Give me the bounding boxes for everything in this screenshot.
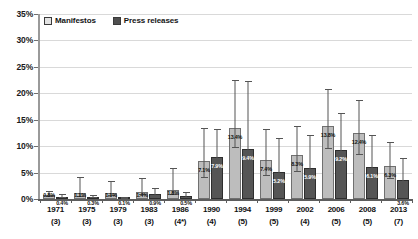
x-axis-tickmark — [40, 199, 41, 203]
bar-group: 1.4%0.9% — [133, 14, 164, 199]
y-axis-tickmark — [34, 40, 38, 41]
bar-group: 1.8%0.5% — [164, 14, 195, 199]
chart-legend: Manifestos Press releases — [44, 16, 178, 25]
legend-item-press-releases: Press releases — [113, 16, 179, 25]
y-axis-tickmark — [34, 93, 38, 94]
bar-value-label: 6.3% — [384, 172, 396, 178]
x-axis-label: 1971(3) — [40, 204, 71, 228]
bar-value-label: 7.4% — [260, 166, 272, 172]
x-axis-year: 1999 — [265, 205, 282, 214]
bar-group: 12.4%6.1% — [350, 14, 381, 199]
x-axis-year: 1975 — [78, 205, 95, 214]
x-axis-label: 1986(4*) — [165, 204, 196, 228]
x-axis-sample-count: (5) — [227, 216, 258, 228]
y-axis-tickmark — [34, 67, 38, 68]
bar-value-label: 1.1% — [74, 192, 86, 198]
bar-group: 7.1%7.9% — [195, 14, 226, 199]
bar-wrapper: 3.6% — [397, 14, 409, 199]
x-axis-year: 1986 — [172, 205, 189, 214]
x-axis-label: 1983(3) — [134, 204, 165, 228]
bar-value-label: 0.5% — [180, 200, 192, 206]
bar-wrapper: 0.9% — [149, 14, 161, 199]
bar-value-label: 12.4% — [352, 139, 366, 145]
x-axis-sample-count: (4*) — [165, 216, 196, 228]
y-axis-tick-label: 25% — [17, 62, 33, 72]
x-axis-year: 1990 — [203, 205, 220, 214]
bar-chart: 0%5%10%15%20%25%30%35% 0.8%0.4%1.1%0.3%1… — [0, 0, 418, 239]
y-axis-tickmark — [34, 120, 38, 121]
bar-wrapper: 6.3% — [384, 14, 396, 199]
x-axis-sample-count: (5) — [321, 216, 352, 228]
bar-group: 0.8%0.4% — [40, 14, 71, 199]
legend-item-manifestos: Manifestos — [44, 16, 96, 25]
legend-label-press-releases: Press releases — [124, 16, 179, 25]
error-bar — [62, 194, 63, 199]
x-axis-year: 2008 — [359, 205, 376, 214]
bar-wrapper: 0.5% — [180, 14, 192, 199]
x-axis-year: 1971 — [47, 205, 64, 214]
bar-wrapper: 6.1% — [366, 14, 378, 199]
bar-group: 1.1%0.1% — [102, 14, 133, 199]
error-bar — [124, 197, 125, 199]
bar-wrapper: 12.4% — [353, 14, 365, 199]
y-axis-tick-label: 15% — [17, 115, 33, 125]
x-axis-tickmark — [257, 199, 258, 203]
y-axis-tickmark — [34, 199, 38, 200]
bar-wrapper: 8.3% — [291, 14, 303, 199]
bar-wrapper: 13.4% — [229, 14, 241, 199]
x-axis-sample-count: (5) — [352, 216, 383, 228]
bar-group: 6.3%3.6% — [381, 14, 412, 199]
bar-value-label: 1.1% — [105, 192, 117, 198]
bar-value-label: 0.1% — [118, 200, 130, 206]
bar-value-label: 9.2% — [335, 156, 347, 162]
bar-value-label: 5.2% — [273, 178, 285, 184]
legend-label-manifestos: Manifestos — [55, 16, 96, 25]
bar-wrapper: 7.9% — [211, 14, 223, 199]
error-bar — [93, 195, 94, 199]
bar-value-label: 6.1% — [366, 173, 378, 179]
bar-value-label: 13.4% — [228, 134, 242, 140]
x-axis-label: 2006(5) — [321, 204, 352, 228]
x-axis-tickmark — [133, 199, 134, 203]
bar-value-label: 0.8% — [43, 192, 55, 198]
bar-value-label: 1.4% — [136, 192, 148, 198]
x-axis-year: 1983 — [141, 205, 158, 214]
bar-wrapper: 9.2% — [335, 14, 347, 199]
bar-value-label: 7.9% — [211, 163, 223, 169]
x-axis-label: 1994(5) — [227, 204, 258, 228]
bar-wrapper: 1.1% — [105, 14, 117, 199]
bar-value-label: 7.1% — [198, 167, 210, 173]
x-axis-label: 1979(3) — [102, 204, 133, 228]
bar-value-label: 0.3% — [87, 200, 99, 206]
x-axis-labels: 1971(3)1975(3)1979(3)1983(3)1986(4*)1990… — [40, 204, 414, 228]
x-axis-tickmark — [71, 199, 72, 203]
x-axis-sample-count: (3) — [71, 216, 102, 228]
x-axis-tickmark — [319, 199, 320, 203]
x-axis-sample-count: (3) — [134, 216, 165, 228]
y-axis-tick-label: 5% — [21, 168, 33, 178]
error-bar — [403, 158, 404, 190]
error-bar — [328, 89, 329, 149]
bar-wrapper: 9.4% — [242, 14, 254, 199]
x-axis-tickmark — [288, 199, 289, 203]
legend-swatch-icon-manifestos — [44, 17, 52, 25]
bar-wrapper: 1.1% — [74, 14, 86, 199]
error-bar — [155, 188, 156, 197]
bar-value-label: 0.4% — [56, 200, 68, 206]
bar-wrapper: 5.9% — [304, 14, 316, 199]
bar-value-label: 1.8% — [167, 190, 179, 196]
error-bar — [359, 100, 360, 155]
legend-swatch-icon-press-releases — [113, 17, 121, 25]
y-axis-tickmark — [34, 173, 38, 174]
bar-wrapper: 5.2% — [273, 14, 285, 199]
bar-wrapper: 1.8% — [167, 14, 179, 199]
x-axis-tickmark — [350, 199, 351, 203]
bar-groups: 0.8%0.4%1.1%0.3%1.1%0.1%1.4%0.9%1.8%0.5%… — [40, 14, 412, 199]
x-axis-sample-count: (4) — [289, 216, 320, 228]
bar-value-label: 3.6% — [397, 200, 409, 206]
x-axis-label: 2008(5) — [352, 204, 383, 228]
x-axis-label: 2002(4) — [289, 204, 320, 228]
y-axis-tick-label: 30% — [17, 35, 33, 45]
bar-group: 7.4%5.2% — [257, 14, 288, 199]
x-axis-label: 1975(3) — [71, 204, 102, 228]
